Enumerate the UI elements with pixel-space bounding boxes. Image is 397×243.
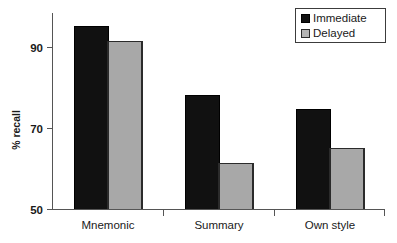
legend: Immediate Delayed — [296, 9, 386, 43]
chart-canvas: 90 70 50 % recall Mnemonic Summary Own s… — [0, 0, 397, 243]
bar-immediate-own-style — [296, 110, 330, 210]
bar-chart: 90 70 50 % recall Mnemonic Summary Own s… — [0, 0, 397, 243]
y-axis-label: % recall — [10, 110, 22, 150]
x-category-label-summary: Summary — [194, 219, 243, 231]
bar-delayed-mnemonic — [108, 41, 142, 209]
legend-item-delayed: Delayed — [301, 27, 355, 39]
x-category-label-mnemonic: Mnemonic — [81, 219, 134, 231]
y-tick-label-90: 90 — [30, 42, 43, 54]
bar-delayed-own-style — [330, 148, 364, 209]
bar-immediate-mnemonic — [74, 26, 108, 209]
y-tick-label-70: 70 — [30, 123, 43, 135]
bar-delayed-summary — [219, 163, 253, 209]
legend-label-immediate: Immediate — [313, 12, 367, 24]
bar-immediate-summary — [185, 96, 219, 210]
y-tick-label-50: 50 — [30, 204, 43, 216]
legend-swatch-immediate-icon — [301, 14, 309, 22]
legend-swatch-delayed-icon — [301, 29, 309, 37]
x-category-label-own-style: Own style — [305, 219, 356, 231]
legend-label-delayed: Delayed — [313, 27, 355, 39]
